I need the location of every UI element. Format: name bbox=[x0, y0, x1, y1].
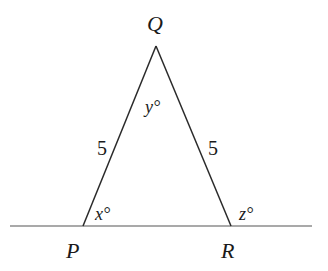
triangle-diagram: Q P R 5 5 y° x° z° bbox=[0, 0, 328, 271]
side-qr bbox=[156, 46, 231, 226]
angle-label-x: x° bbox=[94, 204, 110, 224]
angle-label-y: y° bbox=[143, 97, 160, 117]
side-label-qr: 5 bbox=[208, 137, 218, 159]
vertex-label-p: P bbox=[65, 238, 79, 263]
vertex-label-r: R bbox=[220, 238, 235, 263]
side-label-pq: 5 bbox=[97, 137, 107, 159]
angle-label-z: z° bbox=[238, 204, 253, 224]
vertex-label-q: Q bbox=[147, 11, 163, 36]
side-pq bbox=[83, 46, 156, 226]
